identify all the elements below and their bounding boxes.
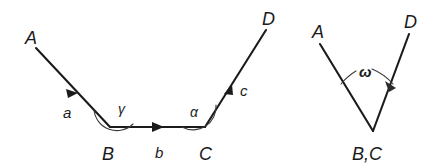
segment-label-a: a: [63, 104, 71, 121]
point-label-c-left: C: [199, 144, 213, 164]
point-label-d-right: D: [404, 12, 417, 32]
segment-b-arrowhead: [152, 122, 164, 132]
point-label-a-right: A: [311, 22, 324, 42]
right-diagram: A D B,C ω: [311, 12, 417, 164]
point-label-a-left: A: [24, 28, 37, 48]
segment-label-b: b: [155, 144, 163, 161]
diagram-canvas: A B C D a b c γ α A D B,C: [0, 0, 435, 167]
left-diagram: A B C D a b c γ α: [24, 9, 275, 164]
angle-omega-arc-left: [341, 71, 356, 84]
angle-label-omega: ω: [359, 63, 372, 80]
point-label-d-left: D: [262, 9, 275, 29]
segment-a-line: [36, 48, 110, 127]
ray-bc-to-a-line: [320, 44, 373, 131]
angle-label-alpha: α: [190, 104, 199, 120]
segment-c-arrowhead: [224, 84, 233, 95]
point-label-bc-right: B,C: [352, 144, 383, 164]
angle-omega-arc-right: [372, 69, 393, 84]
segment-label-c: c: [240, 82, 248, 99]
segment-c-line: [205, 30, 266, 127]
angle-label-gamma: γ: [118, 101, 126, 117]
point-label-b-left: B: [102, 144, 114, 164]
diagram-root: A B C D a b c γ α A D B,C: [0, 0, 435, 167]
